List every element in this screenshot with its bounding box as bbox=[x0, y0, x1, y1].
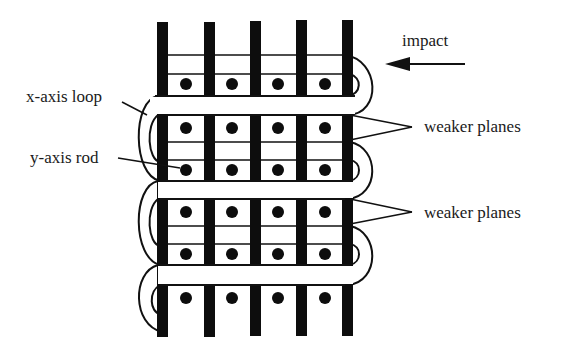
impact-arrow-icon bbox=[385, 57, 465, 71]
impact-label: impact bbox=[402, 31, 449, 50]
woven-rod-diagram: impact x-axis loop y-axis rod weaker pla… bbox=[0, 0, 569, 349]
x-axis-loop-label: x-axis loop bbox=[26, 87, 102, 106]
y-axis-rods bbox=[157, 20, 353, 337]
weaker-planes-pointer-1 bbox=[350, 115, 412, 140]
weaker-planes-pointer-2 bbox=[350, 199, 412, 224]
y-axis-rod-5 bbox=[342, 20, 353, 336]
y-axis-rod-3 bbox=[250, 21, 261, 336]
y-axis-rod-4 bbox=[296, 20, 307, 336]
y-axis-rod-1 bbox=[157, 22, 168, 337]
weaker-planes-label-1: weaker planes bbox=[424, 117, 521, 136]
weaker-planes-label-2: weaker planes bbox=[424, 203, 521, 222]
y-axis-rod-label: y-axis rod bbox=[30, 148, 99, 167]
y-axis-rod-2 bbox=[204, 22, 215, 337]
